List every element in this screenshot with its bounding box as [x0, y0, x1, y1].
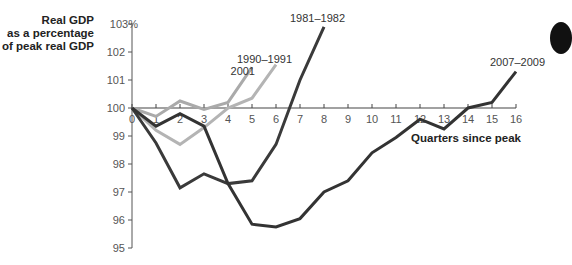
x-tick-label: 16: [510, 113, 522, 125]
y-axis: 9596979899100101102103%: [107, 18, 139, 254]
y-tick-label: 102: [107, 46, 125, 58]
y-tick-label: 97: [113, 186, 125, 198]
series-labels: 20011990–19911981–19822007–2009: [231, 12, 545, 77]
x-axis: 012345678910111213141516: [129, 104, 522, 125]
x-tick-label: 3: [201, 113, 207, 125]
x-tick-label: 4: [225, 113, 231, 125]
x-tick-label: 10: [366, 113, 378, 125]
y-tick-label: 100: [107, 102, 125, 114]
y-tick-label: 98: [113, 158, 125, 170]
series-line-2007–2009: [132, 72, 516, 227]
series-label: 2007–2009: [490, 56, 545, 68]
x-tick-label: 9: [345, 113, 351, 125]
x-tick-label: 8: [321, 113, 327, 125]
series-label: 1990–1991: [237, 53, 292, 65]
x-tick-label: 7: [297, 113, 303, 125]
y-tick-label: 96: [113, 214, 125, 226]
x-tick-label: 14: [462, 113, 474, 125]
x-tick-label: 0: [129, 113, 135, 125]
series-label: 2001: [231, 65, 255, 77]
x-tick-label: 11: [390, 113, 401, 125]
x-tick-label: 6: [273, 113, 279, 125]
x-tick-label: 5: [249, 113, 255, 125]
y-tick-label: 99: [113, 130, 125, 142]
x-axis-title: Quarters since peak: [411, 132, 522, 144]
y-tick-label: 101: [107, 74, 125, 86]
x-tick-label: 13: [438, 113, 450, 125]
series-lines: [132, 27, 516, 227]
x-tick-label: 15: [486, 113, 498, 125]
y-tick-label: 95: [113, 242, 125, 254]
decorative-circle: [550, 22, 572, 54]
y-tick-label: 103%: [110, 18, 138, 30]
series-label: 1981–1982: [290, 12, 345, 24]
